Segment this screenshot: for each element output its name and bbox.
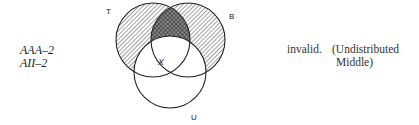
label-u: U <box>191 113 197 122</box>
verdict-reason-line1: (Undistributed <box>332 43 399 56</box>
verdict-result: invalid. <box>287 43 322 56</box>
shaded-region-t-b <box>116 3 225 77</box>
verdict-reason-line2: Middle) <box>336 56 373 69</box>
label-t: T <box>106 7 111 16</box>
x-mark: X <box>157 57 165 67</box>
label-b: B <box>229 12 234 21</box>
